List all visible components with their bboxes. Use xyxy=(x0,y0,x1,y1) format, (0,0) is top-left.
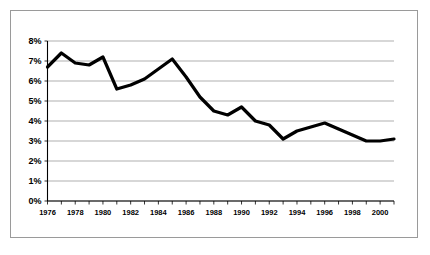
y-tick-label-2%: 2% xyxy=(28,156,41,166)
x-tick-label-1998: 1998 xyxy=(344,208,361,217)
x-tick-label-1982: 1982 xyxy=(122,208,139,217)
data-line-rate xyxy=(48,53,395,141)
y-tick-label-3%: 3% xyxy=(28,136,41,146)
x-tick-label-1976: 1976 xyxy=(39,208,56,217)
x-tick-label-1996: 1996 xyxy=(316,208,333,217)
y-axis-tick-labels: 0%1%2%3%4%5%6%7%8% xyxy=(28,36,47,206)
x-tick-label-1988: 1988 xyxy=(205,208,222,217)
y-tick-label-0%: 0% xyxy=(28,196,41,206)
x-tick-label-1986: 1986 xyxy=(178,208,195,217)
y-tick-label-6%: 6% xyxy=(28,76,41,86)
x-tick-label-1978: 1978 xyxy=(67,208,84,217)
x-tick-label-2000: 2000 xyxy=(372,208,389,217)
x-tick-label-1980: 1980 xyxy=(95,208,112,217)
y-tick-label-8%: 8% xyxy=(28,36,41,46)
chart-container: 0%1%2%3%4%5%6%7%8% 197619781980198219841… xyxy=(0,0,430,255)
x-tick-label-1992: 1992 xyxy=(261,208,278,217)
data-series xyxy=(48,53,395,141)
gridlines xyxy=(48,41,395,201)
y-tick-label-5%: 5% xyxy=(28,96,41,106)
x-tick-label-1994: 1994 xyxy=(289,208,307,217)
line-chart: 0%1%2%3%4%5%6%7%8% 197619781980198219841… xyxy=(0,0,430,255)
x-tick-label-1990: 1990 xyxy=(233,208,250,217)
x-tick-label-1984: 1984 xyxy=(150,208,168,217)
y-tick-label-1%: 1% xyxy=(28,176,41,186)
y-tick-label-7%: 7% xyxy=(28,56,41,66)
y-tick-label-4%: 4% xyxy=(28,116,41,126)
x-axis-tick-labels: 1976197819801982198419861988199019921994… xyxy=(39,208,388,217)
